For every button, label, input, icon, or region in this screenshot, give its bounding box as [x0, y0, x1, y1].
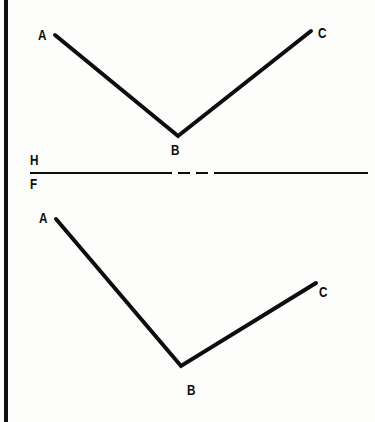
- top-view-label-b: B: [171, 142, 179, 157]
- front-view-label-a: A: [39, 210, 47, 225]
- orthographic-projection-figure: [0, 0, 375, 422]
- drawing-page: A B C H F A B C: [0, 0, 375, 422]
- top-view-polyline-abc: [55, 31, 311, 136]
- fold-line-label-h: H: [30, 152, 38, 167]
- front-view-polyline-abc: [56, 219, 316, 366]
- top-view-group: [55, 31, 311, 136]
- front-view-label-b: B: [187, 382, 195, 397]
- front-view-label-c: C: [319, 284, 327, 299]
- top-view-label-c: C: [318, 25, 326, 40]
- top-view-label-a: A: [38, 27, 46, 42]
- fold-line-label-f: F: [30, 176, 37, 191]
- front-view-group: [56, 219, 316, 366]
